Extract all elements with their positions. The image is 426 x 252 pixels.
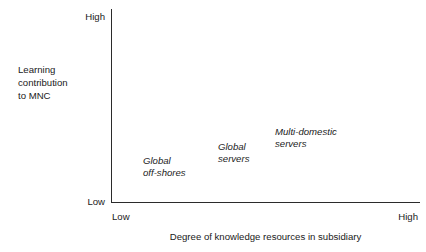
y-axis-tick-low: Low <box>60 196 105 207</box>
y-axis-tick-high: High <box>60 11 105 22</box>
x-axis-tick-high: High <box>360 211 418 222</box>
category-label-global-servers: Global servers <box>218 141 249 166</box>
x-axis-title: Degree of knowledge resources in subsidi… <box>111 231 420 243</box>
y-axis-title: Learning contribution to MNC <box>18 64 106 102</box>
category-label-global-off-shores: Global off-shores <box>143 155 186 180</box>
y-axis-line <box>111 9 112 203</box>
x-axis-tick-low: Low <box>112 211 130 222</box>
x-axis-line <box>111 202 420 203</box>
page-text-sliver <box>0 248 426 252</box>
figure-container: Learning contribution to MNC High Low Lo… <box>0 0 426 252</box>
category-label-multi-domestic-servers: Multi-domestic servers <box>275 126 337 151</box>
